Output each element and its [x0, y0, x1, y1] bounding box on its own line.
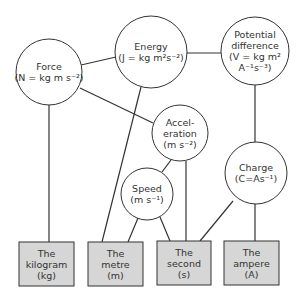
- potential-difference-label-line: A⁻¹s⁻³): [239, 62, 272, 73]
- connector-acceleration-speed: [162, 160, 171, 172]
- acceleration-label-line: (m s⁻²): [163, 139, 196, 150]
- node-potential-difference: Potentialdifference(V = kg m²A⁻¹s⁻³): [221, 17, 289, 85]
- node-second: Thesecond(s): [157, 241, 211, 285]
- connector-speed-metre: [128, 218, 138, 242]
- connector-force-acceleration: [80, 88, 153, 123]
- acceleration-label-line: Accel-: [166, 117, 195, 128]
- acceleration-label-line: eration: [163, 128, 197, 139]
- force-label-line: (N = kg m s⁻²): [14, 72, 83, 83]
- metre-label-line: (m): [107, 270, 124, 281]
- metre-label-line: The: [106, 248, 125, 259]
- metre-label-line: metre: [101, 259, 130, 270]
- node-acceleration: Accel-eration(m s⁻²): [152, 105, 208, 161]
- node-metre: Themetre(m): [88, 242, 143, 286]
- kilogram-label-line: The: [37, 248, 56, 259]
- charge-label-line: (C=As⁻¹): [235, 173, 277, 184]
- charge-label-line: Charge: [239, 162, 273, 173]
- second-label-line: second: [167, 258, 201, 269]
- node-charge: Charge(C=As⁻¹): [225, 142, 287, 204]
- connector-energy-metre: [102, 87, 141, 242]
- node-kilogram: Thekilogram(kg): [19, 242, 74, 286]
- energy-label-line: Energy: [134, 41, 168, 52]
- ampere-label-line: (A): [245, 269, 259, 280]
- kilogram-label-line: kilogram: [26, 259, 68, 270]
- second-label-line: (s): [178, 269, 190, 280]
- potential-difference-label-line: difference: [231, 40, 279, 51]
- node-ampere: Theampere(A): [224, 241, 279, 285]
- kilogram-label-line: (kg): [37, 270, 56, 281]
- connector-force-energy: [81, 57, 116, 65]
- energy-label-line: (J = kg m²s⁻²): [118, 52, 184, 63]
- node-energy: Energy(J = kg m²s⁻²): [115, 16, 187, 88]
- derived-unit-nodes: Force(N = kg m s⁻²)Energy(J = kg m²s⁻²)P…: [14, 16, 289, 220]
- node-force: Force(N = kg m s⁻²): [14, 39, 83, 105]
- speed-label-line: (m s⁻¹): [130, 194, 163, 205]
- connector-speed-second: [160, 217, 170, 241]
- si-units-concept-map: Force(N = kg m s⁻²)Energy(J = kg m²s⁻²)P…: [0, 0, 302, 302]
- node-speed: Speed(m s⁻¹): [121, 168, 173, 220]
- ampere-label-line: The: [242, 247, 261, 258]
- second-label-line: The: [174, 247, 193, 258]
- base-unit-nodes: Thekilogram(kg)Themetre(m)Thesecond(s)Th…: [19, 241, 279, 286]
- potential-difference-label-line: Potential: [234, 29, 276, 40]
- speed-label-line: Speed: [132, 183, 162, 194]
- ampere-label-line: ampere: [233, 258, 270, 269]
- potential-difference-label-line: (V = kg m²: [229, 51, 281, 62]
- connector-charge-second: [200, 201, 233, 241]
- force-label-line: Force: [36, 61, 62, 72]
